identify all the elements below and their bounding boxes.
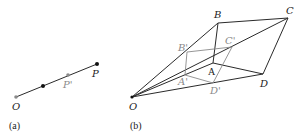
label-a: A (208, 66, 216, 77)
label-d: D (259, 78, 268, 89)
panel-a: O P' P (a) (9, 62, 99, 132)
point-p-prime-a (66, 73, 70, 77)
label-o-b: O (129, 101, 137, 112)
point-mid-a (41, 84, 45, 88)
label-p-prime-a: P' (62, 79, 72, 90)
point-o-a (14, 95, 18, 99)
label-d-prime: D' (209, 85, 221, 96)
point-p-a (95, 62, 99, 66)
point-o-b (130, 95, 133, 98)
label-o-a: O (12, 101, 20, 112)
caption-a: (a) (9, 120, 20, 132)
ray-op (16, 64, 97, 97)
label-p-a: P (91, 68, 99, 79)
panel-b: B C D A B' C' A' D' O (b) (129, 5, 294, 132)
diagram-canvas: O P' P (a) B C D A B' C' (0, 0, 307, 136)
label-a-prime: A' (177, 76, 188, 87)
label-b-prime: B' (177, 42, 188, 53)
caption-b: (b) (130, 120, 142, 132)
label-c: C (286, 5, 294, 16)
label-c-prime: C' (225, 35, 235, 46)
label-b: B (213, 9, 221, 20)
